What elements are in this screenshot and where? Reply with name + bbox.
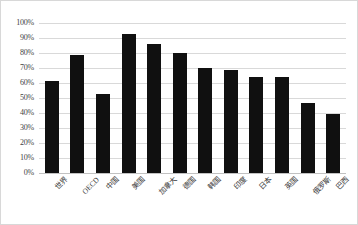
bar — [301, 103, 315, 174]
y-tick-label: 10% — [20, 154, 34, 162]
y-tick-label: 90% — [20, 34, 34, 42]
bar — [173, 53, 187, 173]
x-slot: 韩国 — [192, 174, 218, 224]
bar — [275, 77, 289, 173]
bar-chart-figure: 100%90%80%70%60%50%40%30%20%10%0% 世界OECD… — [0, 0, 358, 225]
bar — [70, 55, 84, 174]
bar-slot — [141, 23, 167, 173]
bar — [45, 81, 59, 173]
x-slot: 美国 — [116, 174, 142, 224]
y-tick-label: 70% — [20, 64, 34, 72]
y-tick-label: 20% — [20, 139, 34, 147]
x-slot: 巴西 — [320, 174, 346, 224]
y-tick-label: 80% — [20, 49, 34, 57]
x-slot: 日本 — [244, 174, 270, 224]
y-tick-label: 30% — [20, 124, 34, 132]
bar — [122, 34, 136, 174]
bar — [326, 114, 340, 173]
x-slot: 中国 — [90, 174, 116, 224]
bar — [96, 94, 110, 174]
y-axis: 100%90%80%70%60%50%40%30%20%10%0% — [1, 23, 37, 173]
bar — [147, 44, 161, 173]
bar — [198, 68, 212, 173]
x-slot: 德国 — [167, 174, 193, 224]
y-tick-label: 100% — [16, 19, 34, 27]
bar — [249, 77, 263, 173]
bar-slot — [116, 23, 142, 173]
x-tick-label: 巴西 — [335, 176, 350, 191]
bar-slot — [167, 23, 193, 173]
x-slot: 世界 — [39, 174, 65, 224]
x-slot: 加拿大 — [141, 174, 167, 224]
x-slot: OECD — [65, 174, 91, 224]
x-slot: 俄罗斯 — [295, 174, 321, 224]
bar-slot — [269, 23, 295, 173]
y-tick-label: 60% — [20, 79, 34, 87]
bar-slot — [39, 23, 65, 173]
x-slot: 印度 — [218, 174, 244, 224]
x-slot: 英国 — [269, 174, 295, 224]
bar-slot — [320, 23, 346, 173]
y-tick-label: 50% — [20, 94, 34, 102]
x-axis: 世界OECD中国美国加拿大德国韩国印度日本英国俄罗斯巴西 — [39, 174, 346, 224]
y-tick-label: 0% — [24, 169, 34, 177]
bars-layer — [39, 23, 346, 173]
bar-slot — [244, 23, 270, 173]
bar-slot — [295, 23, 321, 173]
bar — [224, 70, 238, 173]
bar-slot — [192, 23, 218, 173]
bar-slot — [218, 23, 244, 173]
bar-slot — [65, 23, 91, 173]
y-tick-label: 40% — [20, 109, 34, 117]
bar-slot — [90, 23, 116, 173]
